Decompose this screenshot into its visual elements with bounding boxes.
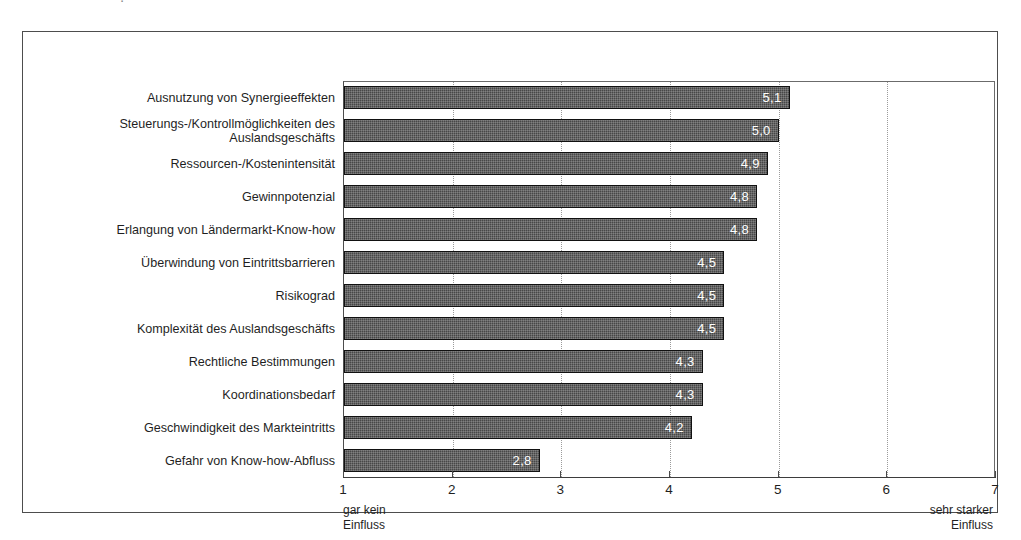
- bar-value-label: 4,3: [676, 387, 702, 402]
- bar[interactable]: 5,0: [344, 119, 779, 142]
- bar[interactable]: 4,3: [344, 350, 703, 373]
- category-label: Koordinationsbedarf: [35, 387, 335, 402]
- x-tick-mark-4: [669, 471, 670, 477]
- bar-value-label: 5,0: [752, 123, 778, 138]
- bar-value-label: 4,8: [730, 222, 756, 237]
- category-label: Gewinnpotenzial: [35, 189, 335, 204]
- bar-row[interactable]: Komplexität des Auslandsgeschäfts4,5: [23, 312, 1021, 345]
- x-tick-label-7: 7: [975, 482, 1015, 497]
- bar-row[interactable]: Steuerungs-/Kontrollmöglichkeiten des Au…: [23, 114, 1021, 147]
- bar-value-label: 5,1: [763, 90, 789, 105]
- clipped-text-line: .: [0, 0, 1021, 5]
- bar[interactable]: 5,1: [344, 86, 790, 109]
- x-tick-label-3: 3: [540, 482, 580, 497]
- bar-value-label: 2,8: [513, 453, 539, 468]
- category-label: Steuerungs-/Kontrollmöglichkeiten des Au…: [35, 116, 335, 145]
- axis-anchor-low-label: gar kein Einfluss: [343, 503, 386, 532]
- chart-frame: Ausnutzung von Synergieeffekten5,1Steuer…: [22, 31, 998, 513]
- x-tick-mark-1: [343, 471, 344, 477]
- bar-value-label: 4,9: [741, 156, 767, 171]
- bar[interactable]: 4,8: [344, 218, 757, 241]
- bar[interactable]: 4,2: [344, 416, 692, 439]
- category-label: Rechtliche Bestimmungen: [35, 354, 335, 369]
- bar[interactable]: 4,5: [344, 284, 724, 307]
- x-axis-line: [343, 477, 996, 478]
- x-tick-mark-5: [778, 471, 779, 477]
- bar-row[interactable]: Gewinnpotenzial4,8: [23, 180, 1021, 213]
- category-label: Ausnutzung von Synergieeffekten: [35, 90, 335, 105]
- x-tick-mark-3: [560, 471, 561, 477]
- category-label: Ressourcen-/Kostenintensität: [35, 156, 335, 171]
- bar-row[interactable]: Risikograd4,5: [23, 279, 1021, 312]
- category-label: Überwindung von Eintrittsbarrieren: [35, 255, 335, 270]
- category-label: Erlangung von Ländermarkt-Know-how: [35, 222, 335, 237]
- bar-row[interactable]: Koordinationsbedarf4,3: [23, 378, 1021, 411]
- bar-row[interactable]: Ausnutzung von Synergieeffekten5,1: [23, 81, 1021, 114]
- bar-row[interactable]: Rechtliche Bestimmungen4,3: [23, 345, 1021, 378]
- x-tick-mark-7: [995, 471, 996, 477]
- x-tick-label-1: 1: [323, 482, 363, 497]
- bar-value-label: 4,3: [676, 354, 702, 369]
- x-tick-label-4: 4: [649, 482, 689, 497]
- bar[interactable]: 4,9: [344, 152, 768, 175]
- bar-value-label: 4,5: [697, 321, 723, 336]
- bar-rows-container: Ausnutzung von Synergieeffekten5,1Steuer…: [23, 81, 1021, 477]
- category-label: Geschwindigkeit des Markteintritts: [35, 420, 335, 435]
- bar-value-label: 4,5: [697, 255, 723, 270]
- bar-row[interactable]: Gefahr von Know-how-Abfluss2,8: [23, 444, 1021, 477]
- clipped-page-text-top: .: [0, 0, 1021, 8]
- bar-row[interactable]: Geschwindigkeit des Markteintritts4,2: [23, 411, 1021, 444]
- bar[interactable]: 4,5: [344, 251, 724, 274]
- bar-value-label: 4,5: [697, 288, 723, 303]
- category-label: Risikograd: [35, 288, 335, 303]
- x-tick-mark-2: [452, 471, 453, 477]
- x-tick-label-6: 6: [866, 482, 906, 497]
- axis-anchor-high-label: sehr starker Einfluss: [813, 503, 993, 532]
- x-tick-label-5: 5: [758, 482, 798, 497]
- bar[interactable]: 4,8: [344, 185, 757, 208]
- category-label: Komplexität des Auslandsgeschäfts: [35, 321, 335, 336]
- bar-row[interactable]: Ressourcen-/Kostenintensität4,9: [23, 147, 1021, 180]
- bar-value-label: 4,2: [665, 420, 691, 435]
- category-label: Gefahr von Know-how-Abfluss: [35, 453, 335, 468]
- bar[interactable]: 4,3: [344, 383, 703, 406]
- bar-row[interactable]: Erlangung von Ländermarkt-Know-how4,8: [23, 213, 1021, 246]
- bar[interactable]: 2,8: [344, 449, 540, 472]
- bar[interactable]: 4,5: [344, 317, 724, 340]
- x-tick-mark-6: [886, 471, 887, 477]
- x-tick-label-2: 2: [432, 482, 472, 497]
- bar-value-label: 4,8: [730, 189, 756, 204]
- bar-row[interactable]: Überwindung von Eintrittsbarrieren4,5: [23, 246, 1021, 279]
